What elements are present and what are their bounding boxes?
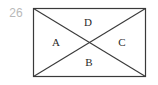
region-label-b: B <box>82 57 96 68</box>
region-label-d: D <box>81 17 95 28</box>
region-label-c: C <box>115 37 129 48</box>
figure-canvas: 26 D A C B <box>0 0 158 85</box>
region-label-a: A <box>49 37 63 48</box>
rectangle-diagonals-diagram <box>0 0 158 85</box>
